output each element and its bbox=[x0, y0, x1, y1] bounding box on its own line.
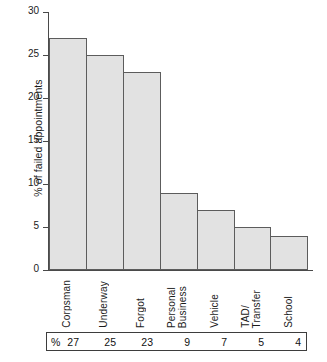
bar-series bbox=[49, 12, 307, 270]
value-table-cell: %27 bbox=[47, 333, 84, 350]
value-table-cell: 7 bbox=[195, 333, 232, 350]
x-category-label-line: TAD/ bbox=[240, 305, 251, 328]
y-tick-label: 15 bbox=[28, 134, 39, 145]
value-table-value: 4 bbox=[295, 336, 301, 348]
value-table-cell: 5 bbox=[232, 333, 269, 350]
value-table-cell: 9 bbox=[158, 333, 195, 350]
x-category-label: Vehicle bbox=[195, 272, 232, 330]
x-category-label-line: Underway bbox=[98, 281, 109, 328]
value-table-value: 25 bbox=[104, 336, 116, 348]
x-axis-category-labels: CorpsmanUnderwayForgotPersonalBusinessVe… bbox=[48, 272, 308, 330]
x-category-label: Corpsman bbox=[48, 272, 85, 330]
value-table-value: 23 bbox=[141, 336, 153, 348]
y-tick-mark bbox=[43, 184, 48, 185]
x-category-label-line: Personal bbox=[166, 287, 177, 328]
y-tick-label: 5 bbox=[33, 220, 39, 231]
plot-area: 051015202530 bbox=[48, 12, 306, 271]
bar bbox=[160, 193, 198, 270]
bar bbox=[49, 38, 87, 270]
bar-chart-figure: % of failed appointments 051015202530 Co… bbox=[0, 0, 327, 362]
y-tick-label: 30 bbox=[28, 5, 39, 16]
value-table: %2725239754 bbox=[46, 332, 307, 351]
x-category-label-line: Forgot bbox=[135, 298, 146, 328]
x-category-label-line: School bbox=[282, 296, 293, 328]
value-table-value: 7 bbox=[221, 336, 227, 348]
x-category-label-line: Vehicle bbox=[208, 294, 219, 328]
value-table-value: 9 bbox=[184, 336, 190, 348]
y-tick-mark bbox=[43, 141, 48, 142]
x-category-label-line: Corpsman bbox=[61, 280, 72, 328]
y-tick-label: 20 bbox=[28, 91, 39, 102]
x-category-label: School bbox=[269, 272, 306, 330]
y-tick-mark bbox=[43, 227, 48, 228]
value-table-cell: 25 bbox=[84, 333, 121, 350]
y-tick-mark bbox=[43, 98, 48, 99]
x-category-label-line: Business bbox=[177, 286, 188, 328]
value-table-cell: 23 bbox=[121, 333, 158, 350]
bar bbox=[270, 236, 308, 270]
bar bbox=[86, 55, 124, 270]
value-table-value: 27 bbox=[67, 336, 79, 348]
y-tick-mark bbox=[43, 55, 48, 56]
x-category-label: Forgot bbox=[122, 272, 159, 330]
x-category-label: Underway bbox=[85, 272, 122, 330]
y-tick-label: 25 bbox=[28, 48, 39, 59]
bar bbox=[196, 210, 234, 270]
x-category-label: PersonalBusiness bbox=[159, 272, 196, 330]
value-table-value: 5 bbox=[258, 336, 264, 348]
y-tick-mark bbox=[43, 12, 48, 13]
x-category-label: TAD/Transfer bbox=[232, 272, 269, 330]
percent-symbol: % bbox=[51, 336, 60, 348]
y-tick-label: 0 bbox=[33, 263, 39, 274]
y-tick-label: 10 bbox=[28, 177, 39, 188]
bar bbox=[233, 227, 271, 270]
bar bbox=[123, 72, 161, 270]
value-table-cell: 4 bbox=[269, 333, 306, 350]
y-tick-mark bbox=[43, 270, 48, 271]
x-category-label-line: Transfer bbox=[251, 290, 262, 328]
